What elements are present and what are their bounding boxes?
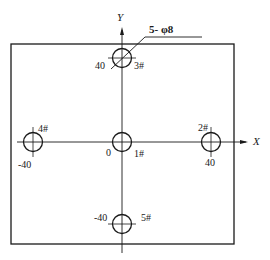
hole-3-label: 3# — [134, 61, 144, 71]
x-axis-arrow-icon — [240, 140, 248, 144]
spec-leader-line — [111, 37, 202, 69]
hole-1-label: 1# — [134, 149, 144, 159]
dim-y-negative: -40 — [94, 213, 107, 223]
origin-label: 0 — [106, 148, 111, 158]
dim-x-negative: -40 — [18, 160, 31, 170]
y-axis-arrow-icon — [120, 27, 124, 35]
hole-5-label: 5# — [141, 213, 151, 223]
hole-2-label: 2# — [198, 123, 208, 133]
hole-spec-callout: 5- φ8 — [149, 24, 173, 35]
dim-y-positive: 40 — [95, 61, 105, 71]
y-axis-label: Y — [117, 12, 123, 23]
hole-4-label: 4# — [38, 124, 48, 134]
x-axis-label: X — [253, 136, 260, 147]
dim-x-positive: 40 — [205, 158, 215, 168]
